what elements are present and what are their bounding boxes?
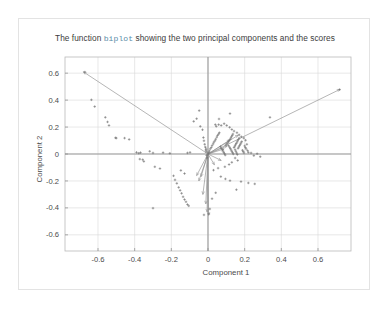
loading-vectors-group [83,72,340,215]
y-tick-label: 0.2 [48,123,59,132]
y-tick-label: 0.6 [48,69,59,78]
x-tick-label: 0.6 [313,255,324,264]
x-axis-title: Component 1 [203,268,250,277]
x-tick-label: -0.4 [128,255,141,264]
x-tick-label: -0.2 [165,255,178,264]
y-axis-tick-labels: -0.6-0.4-0.200.20.40.6 [46,69,59,240]
loading-vector-0 [83,72,208,154]
figure-container: The function biplot showing the two prin… [18,18,370,290]
y-axis-title: Component 2 [35,136,44,183]
x-tick-label: 0.4 [276,255,287,264]
y-tick-label: 0.4 [48,96,59,105]
y-tick-label: -0.6 [46,230,59,239]
x-axis-tick-labels: -0.6-0.4-0.200.20.40.6 [91,255,323,264]
x-tick-label: 0 [206,255,210,264]
score-points-group [84,71,341,216]
x-tick-label: 0.2 [239,255,250,264]
y-tick-label: 0 [55,150,59,159]
loading-vector-1 [208,89,340,154]
y-tick-label: -0.2 [46,177,59,186]
biplot-chart: -0.6-0.4-0.200.20.40.6 -0.6-0.4-0.200.20… [19,19,371,291]
x-tick-label: -0.6 [91,255,104,264]
y-tick-label: -0.4 [46,203,59,212]
